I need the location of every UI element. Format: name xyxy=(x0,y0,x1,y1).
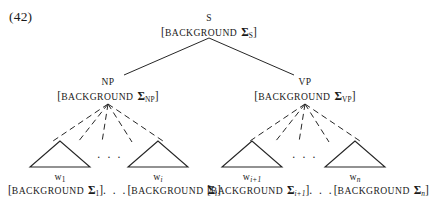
terminal-word-wi1: wi+1 xyxy=(243,171,261,183)
branch-s-to-np xyxy=(124,38,209,75)
terminal-word-subscript: i+1 xyxy=(250,175,261,184)
node-label-s: S xyxy=(206,14,212,24)
ellipsis-np-features: . . . xyxy=(103,184,127,196)
np-fan-line xyxy=(53,104,108,141)
node-feature-vp: [BACKGROUND ΣVP] xyxy=(254,91,355,103)
vp-fan-line xyxy=(305,104,329,142)
terminal-word-subscript: i xyxy=(161,175,163,184)
terminal-features-np-group: [BACKGROUND Σ1]. . .[BACKGROUND Σi] xyxy=(8,185,221,197)
bracket-close: ] xyxy=(155,90,159,102)
terminal-feature-w1: [BACKGROUND Σ1] xyxy=(8,184,103,196)
vp-fan-line xyxy=(299,104,305,142)
sigma-symbol: Σ xyxy=(413,184,422,196)
bracket-close: ] xyxy=(253,26,257,38)
feature-word: BACKGROUND xyxy=(338,185,410,196)
sigma-symbol: Σ xyxy=(136,90,145,102)
ellipsis-vp-features: . . . xyxy=(309,184,333,196)
terminal-word-subscript: n xyxy=(357,175,361,184)
node-label-vp: VP xyxy=(299,78,312,88)
ellipsis-np-children: . . . xyxy=(97,149,122,161)
terminal-word-wn: wn xyxy=(349,171,360,183)
sigma-symbol: Σ xyxy=(240,26,249,38)
terminal-word-w1: w1 xyxy=(54,171,65,183)
terminal-feature-wn: [BACKGROUND Σn] xyxy=(334,184,429,196)
terminal-triangle-wi1 xyxy=(222,141,282,167)
vp-fan-line xyxy=(250,104,305,141)
terminal-features-vp-group: [BACKGROUND Σi+1]. . .[BACKGROUND Σn] xyxy=(207,185,429,197)
terminal-triangle-w1 xyxy=(30,141,90,167)
branch-s-to-vp xyxy=(209,38,294,75)
sigma-subscript: i+1 xyxy=(294,189,305,198)
feature-word: BACKGROUND xyxy=(258,91,330,102)
terminal-feature-wi1: [BACKGROUND Σi+1] xyxy=(207,184,309,196)
vp-dashed-fan xyxy=(250,104,360,142)
terminal-word-subscript: 1 xyxy=(62,175,66,184)
vp-fan-line xyxy=(305,104,360,141)
np-fan-line xyxy=(102,104,108,142)
np-fan-line xyxy=(78,104,108,142)
feature-word: BACKGROUND xyxy=(165,27,237,38)
np-fan-line xyxy=(108,104,163,141)
feature-word: BACKGROUND xyxy=(211,185,283,196)
terminal-word-wi: wi xyxy=(153,171,163,183)
sigma-symbol: Σ xyxy=(333,90,342,102)
sigma-subscript: NP xyxy=(145,95,155,104)
np-fan-line xyxy=(108,104,132,142)
ellipsis-vp-children: . . . xyxy=(292,149,317,161)
terminal-triangle-wi xyxy=(128,141,188,167)
feature-word: BACKGROUND xyxy=(61,91,133,102)
bracket-close: ] xyxy=(425,184,429,196)
np-dashed-fan xyxy=(53,104,163,142)
vp-fan-line xyxy=(275,104,305,142)
feature-word: BACKGROUND xyxy=(131,185,203,196)
node-feature-np: [BACKGROUND ΣNP] xyxy=(57,91,158,103)
feature-word: BACKGROUND xyxy=(12,185,84,196)
node-label-np: NP xyxy=(102,78,115,88)
node-feature-s: [BACKGROUND ΣS] xyxy=(161,27,257,39)
terminal-triangle-wn xyxy=(325,141,385,167)
sigma-subscript: VP xyxy=(342,95,352,104)
bracket-close: ] xyxy=(352,90,356,102)
